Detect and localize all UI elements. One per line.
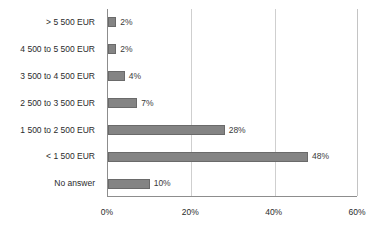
bar-value-label: 28%	[229, 126, 246, 135]
bar-value-label: 2%	[120, 18, 132, 27]
x-tick-label: 0%	[101, 208, 113, 217]
category-label: > 5 500 EUR	[0, 9, 101, 36]
bar	[108, 152, 308, 162]
bar-value-label: 7%	[141, 99, 153, 108]
category-label: 2 500 to 3 500 EUR	[0, 90, 101, 117]
bar	[108, 44, 116, 54]
x-tick-label: 40%	[265, 208, 282, 217]
bar	[108, 179, 150, 189]
bar-chart: > 5 500 EUR 4 500 to 5 500 EUR 3 500 to …	[0, 0, 384, 237]
bar-value-label: 2%	[120, 45, 132, 54]
bar-row: 2%	[108, 9, 357, 36]
bar	[108, 125, 225, 135]
category-axis-labels: > 5 500 EUR 4 500 to 5 500 EUR 3 500 to …	[0, 9, 101, 197]
bar-row: 10%	[108, 170, 357, 197]
bar-value-label: 10%	[154, 179, 171, 188]
bar-row: 4%	[108, 63, 357, 90]
plot-area: 2% 2% 4% 7% 28% 48%	[107, 9, 357, 197]
bar-value-label: 4%	[129, 72, 141, 81]
x-tick-label: 20%	[182, 208, 199, 217]
x-tick-label: 60%	[348, 208, 365, 217]
category-label: 1 500 to 2 500 EUR	[0, 116, 101, 143]
x-axis-tick-labels: 0% 20% 40% 60%	[0, 208, 384, 224]
bar	[108, 17, 116, 27]
category-label: < 1 500 EUR	[0, 143, 101, 170]
bar	[108, 71, 125, 81]
category-label: 4 500 to 5 500 EUR	[0, 36, 101, 63]
bar-row: 7%	[108, 90, 357, 117]
gridline-60	[357, 9, 358, 196]
bar-series: 2% 2% 4% 7% 28% 48%	[108, 9, 357, 196]
bar-row: 2%	[108, 36, 357, 63]
bar-row: 48%	[108, 143, 357, 170]
category-label: 3 500 to 4 500 EUR	[0, 63, 101, 90]
category-label: No answer	[0, 170, 101, 197]
bar-row: 28%	[108, 116, 357, 143]
bar	[108, 98, 137, 108]
bar-value-label: 48%	[312, 152, 329, 161]
